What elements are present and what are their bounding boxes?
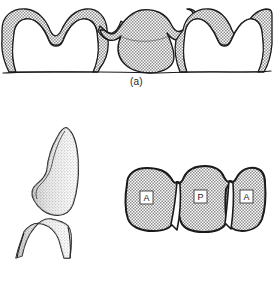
unit-label-pontic: P — [194, 190, 207, 203]
dental-bridge-figure: (a) — [0, 0, 273, 290]
residual-ridge-profile — [16, 219, 71, 258]
unit-label-right-abutment: A — [240, 190, 253, 203]
unit-label-left-abutment: A — [140, 191, 153, 204]
panel-c-drawing: A P A — [115, 160, 265, 260]
panel-a-drawing — [0, 0, 273, 84]
unit-label-pontic-text: P — [197, 192, 203, 202]
unit-label-left-abutment-text: A — [143, 193, 149, 203]
caption-panel-a: (a) — [0, 76, 273, 87]
panel-c-occlusal-view: A P A (c) — [115, 160, 265, 260]
panel-b-drawing — [10, 120, 120, 260]
pontic-proximal-profile — [32, 128, 78, 215]
unit-label-right-abutment-text: A — [243, 192, 249, 202]
panel-a-facial-view: (a) — [0, 0, 273, 84]
panel-b-proximal-view: (b) — [10, 120, 120, 260]
